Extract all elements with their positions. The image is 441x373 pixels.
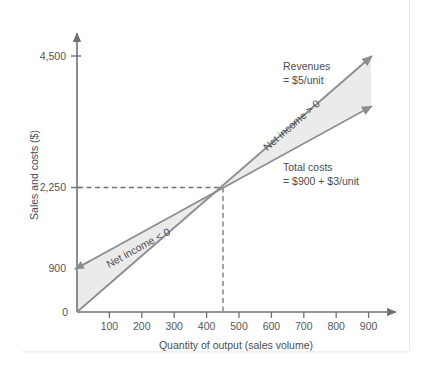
y-tick-label-900: 900 [48, 262, 66, 274]
x-tick-label-700: 700 [295, 320, 313, 332]
revenues-annotation-line2: = $5/unit [283, 74, 324, 86]
y-tick-label-2250: 2,250 [40, 181, 66, 193]
x-tick-marks [109, 312, 368, 318]
breakeven-chart-figure: 4,500 2,250 900 0 100 200 300 400 500 60… [0, 0, 441, 373]
revenues-annotation-line1: Revenues [283, 60, 330, 72]
total-costs-annotation-line1: Total costs [283, 161, 333, 173]
x-tick-label-900: 900 [360, 320, 378, 332]
y-tick-label-0: 0 [62, 306, 68, 318]
y-axis-title: Sales and costs ($) [28, 130, 40, 220]
x-tick-label-500: 500 [230, 320, 248, 332]
x-tick-label-600: 600 [263, 320, 281, 332]
x-tick-label-400: 400 [198, 320, 216, 332]
x-tick-label-200: 200 [133, 320, 151, 332]
cvp-chart: 4,500 2,250 900 0 100 200 300 400 500 60… [0, 0, 441, 373]
x-tick-label-100: 100 [101, 320, 119, 332]
x-tick-label-300: 300 [165, 320, 183, 332]
total-costs-annotation-line2: = $900 + $3/unit [283, 175, 359, 187]
x-axis-title: Quantity of output (sales volume) [159, 339, 313, 351]
y-tick-label-4500: 4,500 [40, 50, 66, 62]
x-tick-label-800: 800 [327, 320, 345, 332]
